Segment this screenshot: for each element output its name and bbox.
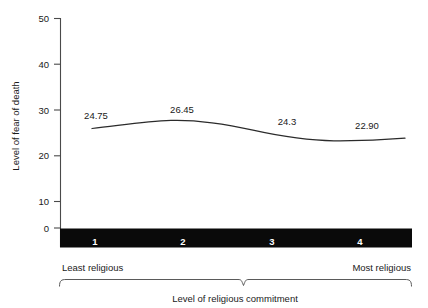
point-label-1: 24.75 bbox=[84, 110, 108, 121]
anchor-label-most: Most religious bbox=[352, 262, 411, 273]
category-label-2: 2 bbox=[180, 236, 185, 247]
y-tick-label-30: 30 bbox=[38, 105, 49, 116]
y-tick-label-40: 40 bbox=[38, 59, 49, 70]
point-label-4: 22.90 bbox=[355, 120, 379, 131]
x-range-brace bbox=[60, 280, 412, 287]
fear-of-death-line-chart: 50 40 30 20 10 0 Level of fear of death … bbox=[0, 0, 428, 308]
y-tick-label-20: 20 bbox=[38, 150, 49, 161]
y-tick-label-50: 50 bbox=[38, 13, 49, 24]
point-label-3: 24.3 bbox=[278, 116, 297, 127]
x-axis-title: Level of religious commitment bbox=[172, 293, 298, 304]
chart-figure: 50 40 30 20 10 0 Level of fear of death … bbox=[0, 0, 428, 308]
y-tick-label-10: 10 bbox=[38, 196, 49, 207]
category-label-4: 4 bbox=[357, 236, 363, 247]
point-label-2: 26.45 bbox=[170, 104, 194, 115]
y-tick-label-0: 0 bbox=[44, 223, 49, 234]
anchor-label-least: Least religious bbox=[62, 262, 124, 273]
y-axis-title: Level of fear of death bbox=[10, 81, 21, 170]
category-label-3: 3 bbox=[269, 236, 274, 247]
category-label-1: 1 bbox=[92, 236, 98, 247]
